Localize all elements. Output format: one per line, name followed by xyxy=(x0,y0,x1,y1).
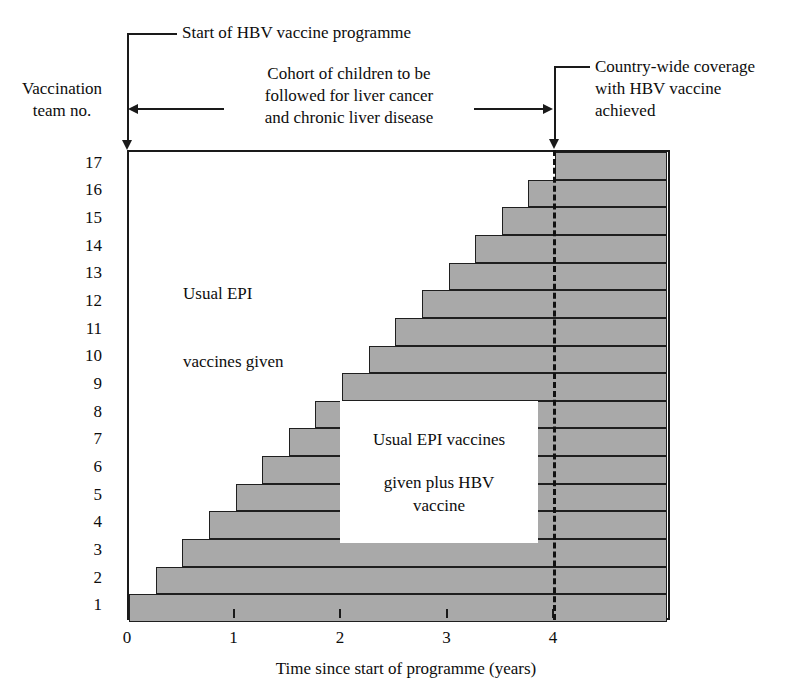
bar-team-10 xyxy=(369,346,667,374)
bar-team-13 xyxy=(449,263,667,291)
x-tick-mark-2 xyxy=(339,609,341,618)
cohort-span-left-arrowhead xyxy=(128,104,138,114)
bar-team-16 xyxy=(528,180,666,208)
bar-team-3 xyxy=(182,539,667,567)
x-tick-label-1: 1 xyxy=(219,628,249,648)
bar-team-14 xyxy=(475,235,667,263)
region-label-epi-plus-hbv-line3: vaccine xyxy=(413,494,465,517)
y-tick-label-6: 6 xyxy=(62,457,102,477)
x-axis-title: Time since start of programme (years) xyxy=(0,659,812,679)
y-tick-label-15: 15 xyxy=(62,208,102,228)
x-tick-label-3: 3 xyxy=(432,628,462,648)
y-tick-label-2: 2 xyxy=(62,568,102,588)
coverage-leader-horizontal-line xyxy=(554,66,590,68)
plot-area xyxy=(127,150,670,620)
bar-team-11 xyxy=(395,318,667,346)
coverage-leader-vertical-line xyxy=(554,66,556,142)
y-tick-label-13: 13 xyxy=(62,263,102,283)
annotation-country-wide-coverage: Country-wide coverage with HBV vaccine a… xyxy=(595,56,805,122)
x-tick-mark-1 xyxy=(233,609,235,618)
coverage-leader-arrowhead xyxy=(549,139,559,149)
bar-team-2 xyxy=(156,567,667,595)
figure-canvas: Start of HBV vaccine programme Vaccinati… xyxy=(0,0,812,693)
y-tick-label-11: 11 xyxy=(62,319,102,339)
bar-team-1 xyxy=(129,594,667,622)
x-tick-label-4: 4 xyxy=(538,628,568,648)
start-leader-horizontal-line xyxy=(127,33,177,35)
bar-team-15 xyxy=(502,207,667,235)
bar-team-17 xyxy=(555,152,667,180)
y-tick-label-14: 14 xyxy=(62,236,102,256)
y-tick-label-4: 4 xyxy=(62,512,102,532)
y-tick-label-16: 16 xyxy=(62,180,102,200)
x-tick-label-0: 0 xyxy=(112,628,142,648)
bar-team-12 xyxy=(422,290,667,318)
y-tick-label-5: 5 xyxy=(62,485,102,505)
bar-team-9 xyxy=(342,373,667,401)
y-tick-label-7: 7 xyxy=(62,429,102,449)
region-label-epi-plus-hbv-line2: given plus HBV xyxy=(384,471,495,494)
region-label-epi-plus-hbv-line1: Usual EPI vaccines xyxy=(373,428,505,451)
region-label-epi-plus-hbv-box: Usual EPI vaccines given plus HBV vaccin… xyxy=(340,401,538,543)
y-tick-label-3: 3 xyxy=(62,540,102,560)
start-leader-arrowhead xyxy=(122,140,132,150)
start-leader-vertical-line xyxy=(127,33,129,143)
region-label-epi-only: Usual EPI vaccines given xyxy=(183,277,284,379)
y-tick-label-8: 8 xyxy=(62,402,102,422)
x-tick-mark-3 xyxy=(446,609,448,618)
y-axis-title: Vaccination team no. xyxy=(6,78,118,122)
annotation-start-of-programme: Start of HBV vaccine programme xyxy=(182,22,411,44)
x-tick-label-2: 2 xyxy=(325,628,355,648)
y-tick-label-10: 10 xyxy=(62,346,102,366)
annotation-cohort: Cohort of children to be followed for li… xyxy=(224,63,474,129)
cohort-span-right-arrowhead xyxy=(543,104,553,114)
y-tick-label-17: 17 xyxy=(62,153,102,173)
y-tick-label-1: 1 xyxy=(62,595,102,615)
coverage-dashed-line xyxy=(553,150,556,620)
y-tick-label-12: 12 xyxy=(62,291,102,311)
y-tick-label-9: 9 xyxy=(62,374,102,394)
